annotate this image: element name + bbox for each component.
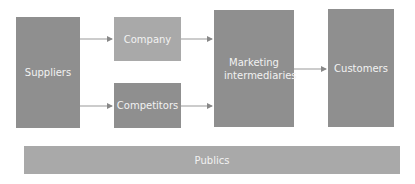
node-marketing-intermediaries: Marketing intermediaries (214, 10, 294, 127)
node-label: Competitors (117, 99, 178, 112)
node-suppliers: Suppliers (16, 17, 80, 128)
node-label: Publics (195, 154, 230, 167)
node-publics: Publics (24, 146, 400, 174)
node-label: Marketing intermediaries (224, 56, 284, 82)
node-competitors: Competitors (114, 83, 181, 128)
node-label: Customers (334, 62, 388, 75)
node-customers: Customers (328, 9, 394, 127)
node-label: Company (124, 33, 172, 46)
node-company: Company (114, 17, 181, 61)
node-label: Suppliers (25, 66, 71, 79)
